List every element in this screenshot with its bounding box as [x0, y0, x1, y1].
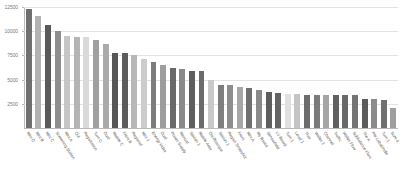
bar-slot — [245, 7, 255, 128]
bar-slot — [235, 7, 245, 128]
bar-slot — [158, 7, 168, 128]
bar-slot — [264, 7, 274, 128]
bar-slot — [293, 7, 303, 128]
bar[interactable] — [131, 55, 137, 128]
bar-slot — [331, 7, 341, 128]
bar-slot — [72, 7, 82, 128]
bar[interactable] — [246, 88, 252, 128]
bar-slot — [24, 7, 34, 128]
x-label-slot: Mini C — [43, 129, 53, 184]
bar[interactable] — [141, 59, 147, 128]
bar[interactable] — [189, 71, 195, 128]
bar-slot — [283, 7, 293, 128]
x-label-slot: Thor — [302, 129, 312, 184]
bar-slot — [120, 7, 130, 128]
x-label-slot: Walter 1 — [312, 129, 322, 184]
bar-slot — [53, 7, 63, 128]
y-axis-tick-label: 7500 — [7, 52, 18, 58]
bar[interactable] — [362, 99, 368, 128]
bar[interactable] — [304, 95, 310, 128]
bar[interactable] — [55, 31, 61, 128]
bar[interactable] — [333, 95, 339, 128]
bar[interactable] — [45, 25, 51, 128]
bar[interactable] — [294, 94, 300, 128]
x-axis-category-label: Dual — [102, 131, 110, 140]
bar[interactable] — [122, 53, 128, 128]
bar[interactable] — [151, 62, 157, 128]
bar[interactable] — [93, 40, 99, 128]
x-label-slot: Oscilloscope — [206, 129, 216, 184]
x-label-slot: Mini D — [24, 129, 34, 184]
x-label-slot: LV Board — [273, 129, 283, 184]
bar[interactable] — [323, 95, 329, 128]
bar-slot — [369, 7, 379, 128]
x-axis-category-labels: Mini DMini BMini CScreening StationMini … — [24, 129, 398, 184]
bar[interactable] — [266, 92, 272, 128]
y-axis-tick-label: 2500 — [7, 101, 18, 107]
x-label-slot: Mobile C — [110, 129, 120, 184]
y-axis-tick-label: 10000 — [5, 28, 18, 34]
bar[interactable] — [218, 85, 224, 128]
bar[interactable] — [237, 87, 243, 128]
bar-slot — [379, 7, 389, 128]
bar-slot — [101, 7, 111, 128]
bar[interactable] — [285, 94, 291, 128]
bar[interactable] — [275, 93, 281, 128]
bar[interactable] — [381, 100, 387, 128]
x-label-slot: Turn 1 — [283, 129, 293, 184]
bar-slot — [43, 7, 53, 128]
bar-slot — [149, 7, 159, 128]
bar-slot — [321, 7, 331, 128]
x-label-slot: Front B — [120, 129, 130, 184]
x-label-slot: Level 1 — [293, 129, 303, 184]
bar[interactable] — [103, 44, 109, 128]
x-label-slot: Mini B — [34, 129, 44, 184]
bar[interactable] — [160, 65, 166, 128]
bar-slot — [312, 7, 322, 128]
bar[interactable] — [314, 95, 320, 128]
bar-slot — [168, 7, 178, 128]
plot-area — [24, 7, 398, 128]
bar-slot — [197, 7, 207, 128]
bar[interactable] — [208, 80, 214, 128]
bar[interactable] — [74, 37, 80, 128]
y-axis-tick-label: 12500 — [5, 4, 18, 10]
bar[interactable] — [390, 108, 396, 128]
x-label-slot: Turn 1 — [379, 129, 389, 184]
y-axis-tick-labels: 2500500075001000012500 — [0, 0, 22, 184]
bar-slot — [302, 7, 312, 128]
bar-chart: 2500500075001000012500 Mini DMini BMini … — [0, 0, 400, 184]
bar[interactable] — [26, 9, 32, 128]
x-label-slot: Region Snapshot — [225, 129, 235, 184]
bar-slot — [206, 7, 216, 128]
bar-slot — [62, 7, 72, 128]
x-label-slot: Regional — [130, 129, 140, 184]
x-label-slot: Turn C — [91, 129, 101, 184]
x-axis-category-label: Dual — [160, 131, 168, 140]
bar[interactable] — [83, 37, 89, 128]
bar[interactable] — [227, 85, 233, 128]
bar[interactable] — [371, 99, 377, 128]
bar[interactable] — [342, 95, 348, 128]
x-label-slot: Front — [235, 129, 245, 184]
x-label-slot: Channel — [321, 129, 331, 184]
bar-slot — [254, 7, 264, 128]
x-label-slot: Sensorfield — [264, 129, 274, 184]
bar[interactable] — [199, 71, 205, 128]
bar-series — [24, 7, 398, 128]
bar[interactable] — [35, 16, 41, 128]
x-label-slot: Energy Index — [149, 129, 159, 184]
x-label-slot: Mobile Area — [197, 129, 207, 184]
bar[interactable] — [352, 95, 358, 128]
bar[interactable] — [64, 36, 70, 128]
bar[interactable] — [112, 53, 118, 128]
x-label-slot: Pre Labspindle — [369, 129, 379, 184]
bar-slot — [110, 7, 120, 128]
bar[interactable] — [179, 69, 185, 128]
bar-slot — [389, 7, 399, 128]
bar[interactable] — [256, 90, 262, 128]
x-label-slot: My Board — [254, 129, 264, 184]
bar[interactable] — [170, 68, 176, 128]
bar-slot — [82, 7, 92, 128]
x-label-slot: The A — [360, 129, 370, 184]
